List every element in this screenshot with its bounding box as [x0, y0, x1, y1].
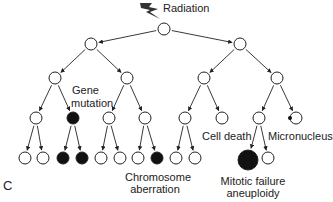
- edge-L3g-L4l: [261, 126, 266, 150]
- edge-L2b-L3d: [130, 85, 141, 110]
- edge-L1b-L2d: [246, 49, 271, 72]
- edge-L3a-L4b: [37, 126, 41, 150]
- mitotic-failure-label-2: aneuploidy: [218, 187, 288, 199]
- cell-node-L3a-normal: [30, 112, 42, 124]
- edge-L3c-L4f: [111, 126, 118, 151]
- edge-L3b-L4d: [75, 126, 80, 150]
- cell-node-L3d-normal: [139, 112, 151, 124]
- edge-L2d-L3g: [262, 85, 273, 110]
- edge-L1b-L2c: [210, 49, 234, 72]
- cell-death-label: Cell death: [202, 130, 252, 142]
- edge-L2c-L3e: [188, 85, 200, 111]
- gene-mutation-label-2: mutation: [71, 97, 113, 109]
- cell-node-L4j-normal: [189, 152, 201, 164]
- edge-L2d-L3h: [280, 85, 292, 111]
- cell-node-L4a-normal: [19, 152, 31, 164]
- micronucleus-dot: [288, 116, 292, 120]
- edge-L2a-L3a: [39, 85, 51, 111]
- edges: [27, 31, 292, 151]
- edge-L3e-L4i: [178, 126, 183, 150]
- panel-label: C: [3, 180, 12, 192]
- edge-L3a-L4a: [27, 126, 34, 151]
- chromosome-aberration-label-2: aberration: [125, 183, 185, 195]
- cell-node-L3g-normal: [253, 112, 265, 124]
- micronucleus-label: Micronucleus: [268, 130, 333, 142]
- edge-L2b-L3c: [112, 85, 123, 110]
- cell-node-L3f-cell-death: [216, 112, 228, 124]
- edge-L3d-L4g: [139, 126, 143, 150]
- cell-node-root-normal: [158, 23, 170, 35]
- cell-node-L4b-normal: [37, 152, 49, 164]
- edge-L3e-L4j: [187, 126, 193, 150]
- cell-node-L2c-normal: [198, 72, 210, 84]
- cell-node-L4g-normal: [132, 152, 144, 164]
- edge-L1a-L2b: [97, 49, 121, 72]
- mitotic-failure-label-1: Mitotic failure: [218, 175, 288, 187]
- radiation-label: Radiation: [163, 2, 209, 14]
- edge-root-L1a: [99, 31, 156, 43]
- edge-root-L1b: [172, 31, 232, 43]
- cell-node-L2d-normal: [271, 72, 283, 84]
- cell-node-L1b-normal: [234, 38, 246, 50]
- gene-mutation-label-1: Gene: [72, 84, 99, 96]
- cell-node-L4l-normal: [262, 152, 274, 164]
- nodes: [19, 23, 302, 170]
- cell-node-L1a-normal: [85, 38, 97, 50]
- cell-node-L4i-normal: [170, 152, 182, 164]
- cell-node-L4e-normal: [95, 152, 107, 164]
- cell-node-L3c-normal: [103, 112, 115, 124]
- cell-node-L2a-normal: [49, 72, 61, 84]
- cell-node-L2b-normal: [121, 72, 133, 84]
- cell-node-L4h-chromosome-aberration: [151, 152, 163, 164]
- lightning-bolt-icon: [140, 3, 160, 19]
- cell-node-L3b-gene-mutation: [67, 112, 79, 124]
- cell-node-L4f-normal: [114, 152, 126, 164]
- chromosome-aberration-label-1: Chromosome: [125, 171, 185, 183]
- edge-L2c-L3f: [207, 85, 218, 110]
- edge-L3b-L4c: [65, 126, 71, 150]
- edge-L3g-L4k: [251, 126, 257, 149]
- edge-L2a-L3b: [58, 85, 69, 110]
- cell-node-L4c-gene-mutation: [57, 152, 69, 164]
- cell-node-L4k-mitotic-failure: [238, 150, 258, 170]
- cell-node-L4d-gene-mutation: [76, 152, 88, 164]
- edge-L3d-L4h: [147, 126, 154, 151]
- edge-L1a-L2a: [61, 49, 85, 72]
- edge-L3c-L4e: [103, 126, 108, 150]
- cell-node-L3e-normal: [179, 112, 191, 124]
